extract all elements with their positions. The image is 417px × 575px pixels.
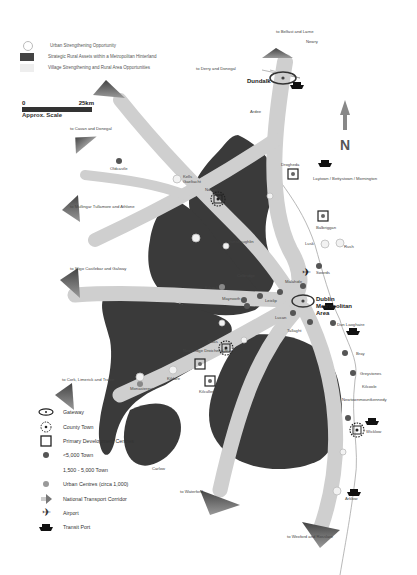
svg-text:Carlow: Carlow — [152, 466, 166, 471]
svg-text:Dublin: Dublin — [316, 296, 335, 302]
legend-bottom: Gateway County Town Primary Development … — [38, 405, 134, 535]
svg-text:Celbridge: Celbridge — [237, 273, 256, 278]
svg-text:Area: Area — [316, 310, 330, 316]
svg-text:Laytown / Bettystown / Morning: Laytown / Bettystown / Mornington — [313, 176, 378, 181]
grey-dot-icon — [38, 480, 54, 488]
svg-text:Ardee: Ardee — [250, 109, 262, 114]
svg-text:Newry: Newry — [306, 39, 319, 44]
svg-text:Dunshaughlin: Dunshaughlin — [228, 239, 254, 244]
gateway-icon — [38, 408, 54, 416]
legend-airport: ✈ Airport — [38, 506, 134, 520]
svg-text:to Cavan and Donegal: to Cavan and Donegal — [70, 126, 112, 131]
svg-text:to Derry and Donegal: to Derry and Donegal — [196, 66, 236, 71]
svg-text:Swords: Swords — [316, 270, 330, 275]
legend-mid-town: 1,500 - 5,000 Town — [38, 463, 134, 477]
svg-text:Navan: Navan — [205, 187, 218, 192]
svg-text:Monasterevin: Monasterevin — [130, 386, 156, 391]
svg-text:Tallaght: Tallaght — [287, 328, 302, 333]
svg-text:to Mullingar Tullamore and Ath: to Mullingar Tullamore and Athlone — [70, 204, 135, 209]
legend-gateway: Gateway — [38, 405, 134, 419]
svg-text:Rush: Rush — [344, 244, 354, 249]
airplane-icon: ✈ — [38, 506, 54, 519]
svg-text:Dun Laoghaire: Dun Laoghaire — [337, 322, 365, 327]
dark-dot-icon — [38, 451, 54, 459]
legend-urban-centres: Urban Centres (circa 1,000) — [38, 477, 134, 491]
svg-text:Dundalk: Dundalk — [247, 78, 271, 84]
county-town-icon — [38, 421, 54, 433]
legend-port: Transit Port — [38, 520, 134, 534]
ship-icon — [38, 523, 54, 531]
svg-text:Arklow: Arklow — [345, 496, 359, 501]
svg-text:Newtownmountkennedy: Newtownmountkennedy — [342, 397, 388, 402]
svg-text:N: N — [340, 137, 350, 153]
svg-text:Bray: Bray — [356, 351, 366, 356]
legend-corridor: National Transport Corridor — [38, 491, 134, 505]
svg-text:Drogheda: Drogheda — [281, 162, 300, 167]
svg-text:Lusk: Lusk — [305, 241, 315, 246]
svg-text:Lucan: Lucan — [275, 315, 287, 320]
svg-text:Maynooth: Maynooth — [222, 296, 241, 301]
legend-small-town: <5,000 Town — [38, 448, 134, 462]
svg-text:Naas: Naas — [208, 339, 218, 344]
svg-text:to Waterford: to Waterford — [180, 489, 204, 494]
svg-text:Balbriggan: Balbriggan — [316, 225, 337, 230]
svg-text:Kilcock: Kilcock — [205, 285, 219, 290]
svg-text:to Wexford and Rosslare: to Wexford and Rosslare — [287, 534, 334, 539]
svg-text:Kildare: Kildare — [167, 376, 181, 381]
north-arrow: N — [340, 100, 350, 153]
legend-county-town: County Town — [38, 419, 134, 433]
svg-text:Kilcullen: Kilcullen — [199, 389, 215, 394]
svg-text:Newbridge Droichead Nua: Newbridge Droichead Nua — [183, 348, 233, 353]
square-icon — [38, 435, 54, 447]
svg-text:Gaeltacht: Gaeltacht — [183, 179, 202, 184]
svg-text:to Belfast and Larne: to Belfast and Larne — [276, 29, 314, 34]
svg-text:Leixlip: Leixlip — [265, 298, 278, 303]
svg-text:Wicklow: Wicklow — [366, 429, 382, 434]
svg-text:Metropolitan: Metropolitan — [316, 303, 352, 309]
arrow-icon — [38, 493, 54, 505]
svg-text:Oldcastle: Oldcastle — [110, 166, 128, 171]
svg-text:Greystones: Greystones — [360, 371, 381, 376]
svg-text:to Sligo Castlebar and Galway: to Sligo Castlebar and Galway — [70, 266, 127, 271]
legend-primary-dev: Primary Development Centres — [38, 434, 134, 448]
svg-text:Malahide: Malahide — [285, 279, 303, 284]
svg-text:Kilcoole: Kilcoole — [362, 384, 377, 389]
svg-text:to Cork, Limerick and Tralee: to Cork, Limerick and Tralee — [62, 377, 115, 382]
airplane-icon: ✈ — [302, 266, 311, 278]
